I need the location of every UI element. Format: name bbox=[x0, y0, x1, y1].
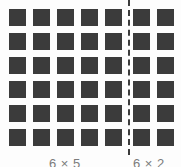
array-square bbox=[57, 105, 74, 122]
array-square bbox=[105, 9, 122, 26]
array-square bbox=[57, 9, 74, 26]
array-diagram: 6 × 5 6 × 2 bbox=[0, 0, 181, 167]
group-divider-dashed-line bbox=[128, 0, 130, 155]
array-square bbox=[105, 105, 122, 122]
array-square bbox=[105, 81, 122, 98]
array-square bbox=[57, 33, 74, 50]
left-group-label: 6 × 5 bbox=[49, 157, 81, 167]
array-square bbox=[157, 105, 174, 122]
array-square bbox=[157, 81, 174, 98]
array-square bbox=[81, 33, 98, 50]
array-square bbox=[33, 9, 50, 26]
array-square bbox=[57, 81, 74, 98]
array-square bbox=[81, 57, 98, 74]
array-square bbox=[57, 129, 74, 146]
array-square bbox=[9, 9, 26, 26]
array-square bbox=[157, 57, 174, 74]
array-square bbox=[133, 105, 150, 122]
array-square bbox=[133, 33, 150, 50]
array-square bbox=[9, 33, 26, 50]
array-square bbox=[133, 81, 150, 98]
array-square bbox=[33, 57, 50, 74]
array-square bbox=[33, 129, 50, 146]
array-square bbox=[133, 57, 150, 74]
array-square bbox=[33, 105, 50, 122]
array-square bbox=[105, 33, 122, 50]
array-square bbox=[157, 129, 174, 146]
array-square bbox=[157, 33, 174, 50]
array-square bbox=[9, 57, 26, 74]
array-square bbox=[57, 57, 74, 74]
array-square bbox=[157, 9, 174, 26]
array-square bbox=[33, 33, 50, 50]
array-square bbox=[133, 129, 150, 146]
array-square bbox=[9, 81, 26, 98]
array-square bbox=[9, 129, 26, 146]
array-square bbox=[105, 129, 122, 146]
group-labels: 6 × 5 6 × 2 bbox=[0, 157, 181, 167]
array-square bbox=[133, 9, 150, 26]
array-square bbox=[81, 9, 98, 26]
array-square bbox=[105, 57, 122, 74]
array-square bbox=[33, 81, 50, 98]
array-square bbox=[81, 81, 98, 98]
array-square bbox=[81, 129, 98, 146]
square-grid bbox=[0, 0, 181, 167]
array-square bbox=[81, 105, 98, 122]
array-square bbox=[9, 105, 26, 122]
right-group-label: 6 × 2 bbox=[133, 157, 165, 167]
